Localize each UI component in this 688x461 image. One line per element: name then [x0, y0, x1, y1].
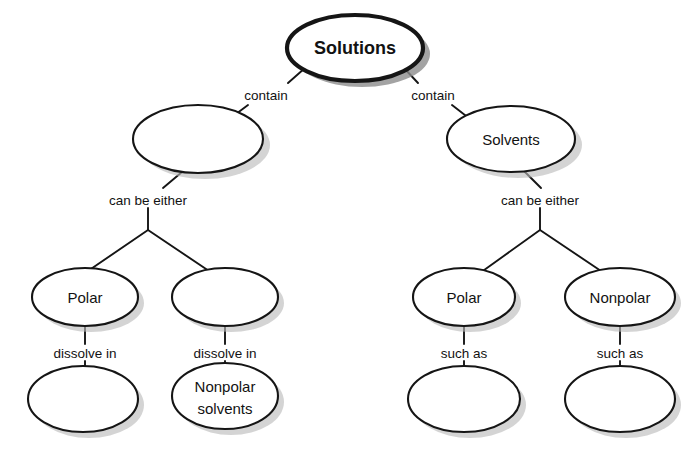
connector-either-left-to-polar: [85, 230, 148, 273]
node-nonpolar-solvents-ellipse[interactable]: [172, 363, 278, 429]
node-nonpolar-label: Nonpolar: [590, 289, 651, 306]
edge-label-suchas-right: such as: [597, 346, 644, 361]
node-nonpolar-solvents[interactable]: Nonpolar solvents: [172, 363, 278, 429]
node-blank-nonpolar-example-ellipse[interactable]: [565, 366, 675, 432]
node-blank-polar-example-ellipse[interactable]: [408, 366, 520, 432]
node-blank-nonpolar-example[interactable]: [565, 366, 675, 432]
node-blank-polar-solvents[interactable]: [28, 366, 138, 432]
node-blank-nonpolar-solute[interactable]: [172, 268, 278, 326]
node-polar-right[interactable]: Polar: [413, 268, 515, 326]
node-blank-solutes-ellipse[interactable]: [133, 105, 263, 173]
edge-label-contain-right: contain: [411, 88, 455, 103]
node-polar-right-label: Polar: [446, 289, 481, 306]
node-polar-left[interactable]: Polar: [32, 268, 138, 326]
connector-either-left-to-blank: [148, 230, 212, 273]
edge-label-dissolve-left: dissolve in: [53, 346, 116, 361]
node-blank-nonpolar-solute-ellipse[interactable]: [172, 268, 278, 326]
node-nonpolar[interactable]: Nonpolar: [565, 268, 675, 326]
node-blank-polar-solvents-ellipse[interactable]: [28, 366, 138, 432]
connector-either-right-to-polar: [480, 230, 540, 273]
node-group: Solutions Solvents Polar Polar: [28, 15, 675, 432]
node-blank-polar-example[interactable]: [408, 366, 520, 432]
node-blank-solutes[interactable]: [133, 105, 263, 173]
node-polar-left-label: Polar: [67, 289, 102, 306]
node-solvents-label: Solvents: [482, 131, 540, 148]
edge-label-dissolve-right: dissolve in: [193, 346, 256, 361]
connector-either-right-to-nonpolar: [540, 230, 604, 273]
node-nonpolar-solvents-label-line1: Nonpolar: [195, 378, 256, 395]
edge-label-either-left: can be either: [109, 193, 188, 208]
edge-label-either-right: can be either: [501, 193, 580, 208]
node-nonpolar-solvents-label-line2: solvents: [197, 400, 252, 417]
node-solvents[interactable]: Solvents: [447, 106, 575, 172]
concept-map-canvas: Solutions Solvents Polar Polar: [0, 0, 688, 461]
edge-label-suchas-left: such as: [441, 346, 488, 361]
node-solutions[interactable]: Solutions: [287, 15, 423, 81]
edge-label-contain-left: contain: [244, 88, 288, 103]
concept-map-graphics: Solutions Solvents Polar Polar: [0, 0, 688, 461]
node-solutions-label: Solutions: [314, 38, 396, 58]
